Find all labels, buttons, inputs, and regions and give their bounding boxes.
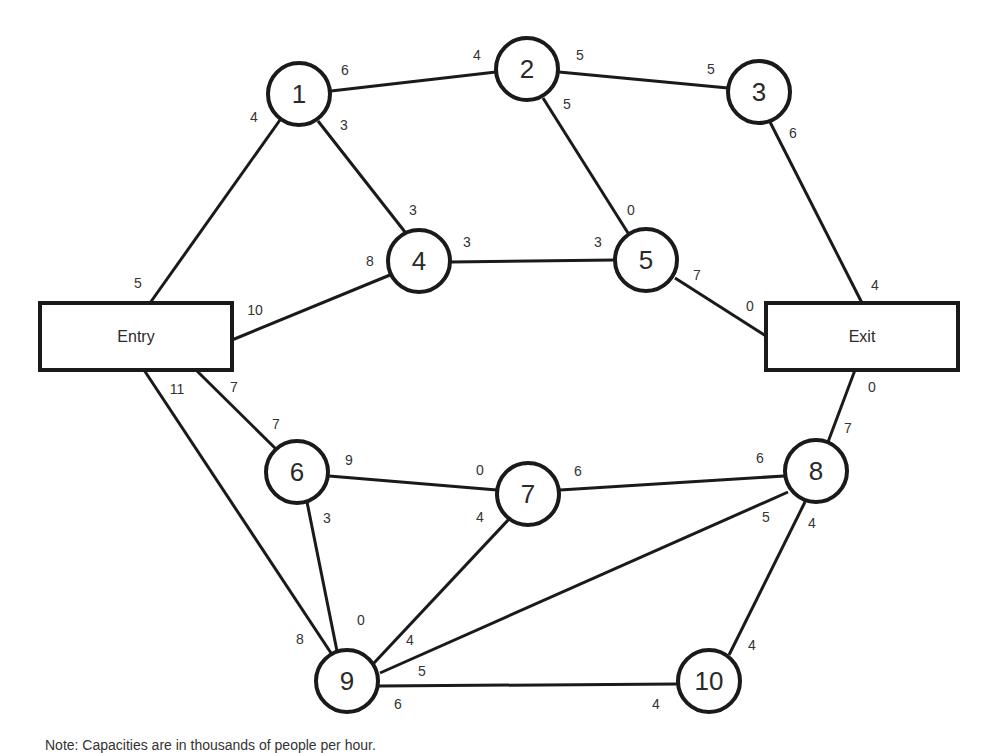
edge-entry-1 <box>150 120 280 303</box>
node-7: 7 <box>497 463 559 525</box>
capacity-label: 5 <box>418 663 426 679</box>
edge-3-exit <box>770 122 862 303</box>
node-label: Exit <box>849 328 876 345</box>
edge-1-2 <box>331 72 496 91</box>
capacity-label: 11 <box>170 381 185 397</box>
capacity-label: 4 <box>748 637 756 653</box>
capacity-label: 5 <box>134 275 142 291</box>
node-entry: Entry <box>40 303 232 370</box>
node-6: 6 <box>266 441 328 503</box>
edge-1-4 <box>318 121 405 232</box>
capacity-label: 4 <box>406 632 414 648</box>
node-label: 5 <box>639 245 653 275</box>
node-label: 4 <box>412 246 426 276</box>
node-4: 4 <box>388 230 450 292</box>
capacity-label: 9 <box>345 452 353 468</box>
capacity-label: 6 <box>394 696 402 712</box>
node-label: 10 <box>695 666 724 696</box>
capacity-label: 7 <box>272 416 280 432</box>
capacity-label: 5 <box>762 509 770 525</box>
node-label: 6 <box>290 457 304 487</box>
capacity-label: 5 <box>576 47 584 63</box>
capacity-label: 4 <box>473 47 481 63</box>
capacity-label: 4 <box>250 109 258 125</box>
capacity-label: 3 <box>594 234 602 250</box>
capacity-label: 3 <box>323 510 331 526</box>
capacity-label: 10 <box>247 302 263 318</box>
capacity-label: 8 <box>296 631 304 647</box>
node-label: 1 <box>292 79 306 109</box>
node-2: 2 <box>496 38 558 100</box>
footnote: Note: Capacities are in thousands of peo… <box>45 738 376 752</box>
capacity-label: 6 <box>341 62 349 78</box>
node-label: 2 <box>520 54 534 84</box>
capacity-label: 8 <box>366 253 374 269</box>
capacity-label: 0 <box>746 298 754 314</box>
node-label: 3 <box>752 77 766 107</box>
node-5: 5 <box>615 229 677 291</box>
capacity-label: 5 <box>563 96 571 112</box>
node-3: 3 <box>728 61 790 123</box>
capacity-label: 6 <box>574 463 582 479</box>
node-9: 9 <box>316 650 378 712</box>
edge-9-10 <box>379 684 678 686</box>
capacity-label: 5 <box>707 61 715 77</box>
edge-8-9 <box>380 492 788 673</box>
edges-layer <box>144 72 862 686</box>
capacity-label: 0 <box>357 612 365 628</box>
capacity-label: 3 <box>409 202 417 218</box>
nodes-layer: EntryExit12345678910 <box>40 38 958 712</box>
node-label: 9 <box>340 666 354 696</box>
node-exit: Exit <box>766 303 958 370</box>
capacity-label: 0 <box>627 202 635 218</box>
capacity-label: 0 <box>868 379 876 395</box>
node-label: Entry <box>117 328 154 345</box>
capacity-label: 7 <box>230 379 238 395</box>
edge-6-9 <box>307 502 337 651</box>
edge-4-5 <box>451 260 615 262</box>
node-label: 8 <box>809 456 823 486</box>
node-label: 7 <box>521 479 535 509</box>
node-1: 1 <box>268 63 330 125</box>
capacity-label: 3 <box>340 117 348 133</box>
capacity-label: 7 <box>693 267 701 283</box>
capacity-label: 4 <box>652 696 660 712</box>
edge-7-9 <box>374 519 509 663</box>
node-10: 10 <box>678 650 740 712</box>
capacity-label: 4 <box>871 277 879 293</box>
capacity-label: 4 <box>476 509 484 525</box>
node-8: 8 <box>785 440 847 502</box>
edge-2-5 <box>543 98 628 233</box>
capacity-label: 6 <box>756 450 764 466</box>
edge-6-7 <box>329 476 497 490</box>
edge-2-3 <box>559 72 728 88</box>
capacity-label: 7 <box>844 420 852 436</box>
capacity-label: 6 <box>789 125 797 141</box>
capacity-label: 3 <box>463 234 471 250</box>
capacity-label: 0 <box>476 462 484 478</box>
capacity-labels-layer: 5410877118643355506433700790306644554464 <box>134 47 879 712</box>
capacity-label: 4 <box>808 515 816 531</box>
edge-7-8 <box>560 476 784 490</box>
